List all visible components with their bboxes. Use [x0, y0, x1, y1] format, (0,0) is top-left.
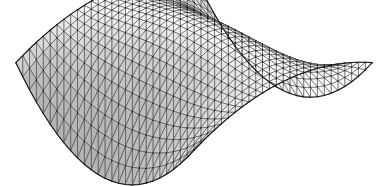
mesh-vertex — [180, 126, 181, 127]
mesh-vertex — [193, 148, 194, 149]
mesh-vertex — [159, 122, 160, 123]
mesh-vertex — [317, 65, 318, 66]
mesh-vertex — [282, 53, 283, 54]
mesh-vertex — [70, 150, 71, 151]
mesh-vertex — [166, 108, 167, 109]
mesh-vertex — [289, 69, 290, 70]
mesh-vertex — [97, 21, 98, 22]
mesh-vertex — [289, 56, 290, 57]
mesh-vertex — [118, 20, 119, 21]
mesh-vertex — [97, 90, 98, 91]
surface-mesh-canvas — [0, 0, 387, 187]
mesh-vertex — [282, 62, 283, 63]
mesh-vertex — [200, 10, 201, 11]
mesh-vertex — [159, 89, 160, 90]
mesh-vertex — [118, 103, 119, 104]
mesh-vertex — [84, 62, 85, 63]
mesh-vertex — [289, 58, 290, 59]
mesh-vertex — [193, 77, 194, 78]
mesh-vertex — [269, 62, 270, 63]
mesh-vertex — [187, 87, 188, 88]
mesh-vertex — [145, 21, 146, 22]
mesh-vertex — [145, 30, 146, 31]
mesh-vertex — [173, 4, 174, 5]
mesh-vertex — [139, 1, 140, 2]
mesh-vertex — [91, 68, 92, 69]
mesh-vertex — [255, 89, 256, 90]
mesh-vertex — [118, 183, 119, 184]
mesh-vertex — [180, 5, 181, 6]
mesh-vertex — [303, 78, 304, 79]
mesh-vertex — [77, 42, 78, 43]
mesh-vertex — [248, 41, 249, 42]
mesh-vertex — [276, 84, 277, 85]
mesh-vertex — [193, 144, 194, 145]
mesh-vertex — [145, 13, 146, 14]
mesh-vertex — [317, 96, 318, 97]
mesh-vertex — [36, 101, 37, 102]
mesh-vertex — [173, 1, 174, 2]
mesh-vertex — [159, 11, 160, 12]
mesh-vertex — [104, 114, 105, 115]
mesh-vertex — [317, 71, 318, 72]
mesh-vertex — [241, 39, 242, 40]
mesh-vertex — [324, 64, 325, 65]
mesh-vertex — [282, 81, 283, 82]
mesh-vertex — [159, 46, 160, 47]
mesh-vertex — [43, 90, 44, 91]
mesh-vertex — [84, 119, 85, 120]
mesh-vertex — [207, 136, 208, 137]
mesh-vertex — [221, 81, 222, 82]
mesh-vertex — [255, 40, 256, 41]
mesh-vertex — [139, 18, 140, 19]
mesh-vertex — [214, 125, 215, 126]
mesh-vertex — [303, 87, 304, 88]
mesh-vertex — [139, 64, 140, 65]
mesh-vertex — [235, 38, 236, 39]
mesh-vertex — [145, 53, 146, 54]
mesh-vertex — [56, 52, 57, 53]
mesh-vertex — [358, 62, 359, 63]
mesh-vertex — [221, 29, 222, 30]
mesh-vertex — [70, 105, 71, 106]
mesh-vertex — [235, 35, 236, 36]
mesh-vertex — [241, 91, 242, 92]
mesh-vertex — [145, 134, 146, 135]
mesh-vertex — [187, 29, 188, 30]
mesh-vertex — [228, 117, 229, 118]
mesh-vertex — [91, 27, 92, 28]
mesh-vertex — [70, 51, 71, 52]
mesh-vertex — [125, 7, 126, 8]
mesh-vertex — [193, 91, 194, 92]
mesh-vertex — [289, 61, 290, 62]
mesh-vertex — [145, 168, 146, 169]
mesh-vertex — [228, 112, 229, 113]
mesh-vertex — [187, 157, 188, 158]
mesh-vertex — [173, 111, 174, 112]
mesh-vertex — [111, 81, 112, 82]
mesh-vertex — [125, 89, 126, 90]
mesh-vertex — [29, 89, 30, 90]
mesh-vertex — [228, 34, 229, 35]
mesh-vertex — [228, 28, 229, 29]
mesh-vertex — [159, 105, 160, 106]
mesh-vertex — [173, 125, 174, 126]
mesh-vertex — [187, 38, 188, 39]
mesh-vertex — [365, 69, 366, 70]
mesh-vertex — [152, 32, 153, 33]
mesh-vertex — [330, 93, 331, 94]
mesh-vertex — [166, 50, 167, 51]
mesh-vertex — [207, 32, 208, 33]
mesh-vertex — [159, 177, 160, 178]
mesh-vertex — [159, 59, 160, 60]
mesh-vertex — [296, 59, 297, 60]
mesh-vertex — [166, 174, 167, 175]
mesh-vertex — [200, 57, 201, 58]
mesh-vertex — [235, 105, 236, 106]
mesh-vertex — [200, 36, 201, 37]
mesh-vertex — [159, 74, 160, 75]
mesh-vertex — [97, 152, 98, 153]
mesh-vertex — [200, 143, 201, 144]
mesh-vertex — [166, 38, 167, 39]
mesh-vertex — [139, 79, 140, 80]
